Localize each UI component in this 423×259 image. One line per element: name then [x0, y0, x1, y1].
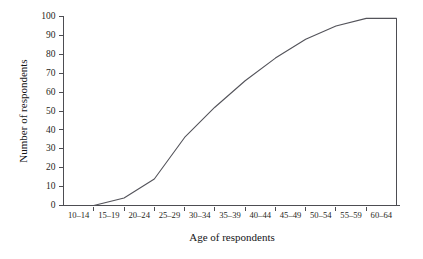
y-axis-tick-label: 60 [46, 87, 56, 97]
y-axis-tick-label: 90 [46, 30, 56, 40]
cumulative-frequency-chart: 0102030405060708090100 10–1415–1920–2425… [0, 0, 423, 259]
y-axis-tick-label: 40 [46, 125, 56, 135]
x-axis-tick-label: 55–59 [340, 210, 361, 220]
y-axis-tick-label: 0 [51, 200, 56, 210]
x-axis-tick-label: 35–39 [219, 210, 240, 220]
y-axis-tick-label: 100 [41, 11, 56, 21]
y-axis-tick-marks [59, 17, 64, 206]
x-axis-tick-label: 60–64 [371, 210, 393, 220]
x-axis-tick-label: 30–34 [189, 210, 211, 220]
x-axis-tick-label: 45–49 [280, 210, 301, 220]
x-axis-tick-label: 20–24 [128, 210, 150, 220]
x-axis-title: Age of respondents [189, 231, 275, 243]
x-axis-tick-label: 25–29 [159, 210, 180, 220]
y-axis-tick-label: 30 [46, 143, 56, 153]
y-axis-title: Number of respondents [17, 59, 29, 162]
y-axis-tick-labels: 0102030405060708090100 [41, 11, 56, 210]
x-axis-tick-labels: 10–1415–1920–2425–2930–3435–3940–4445–49… [68, 210, 393, 220]
x-axis-tick-label: 15–19 [98, 210, 119, 220]
chart-canvas: 0102030405060708090100 10–1415–1920–2425… [0, 0, 423, 259]
x-axis-tick-label: 50–54 [310, 210, 332, 220]
y-axis-tick-label: 80 [46, 49, 56, 59]
y-axis-tick-label: 20 [46, 162, 56, 172]
y-axis-tick-label: 50 [46, 106, 56, 116]
cumulative-frequency-line [94, 18, 397, 205]
x-axis-tick-label: 10–14 [68, 210, 90, 220]
x-axis-tick-label: 40–44 [250, 210, 272, 220]
y-axis-tick-label: 70 [46, 68, 56, 78]
y-axis-tick-label: 10 [46, 181, 56, 191]
